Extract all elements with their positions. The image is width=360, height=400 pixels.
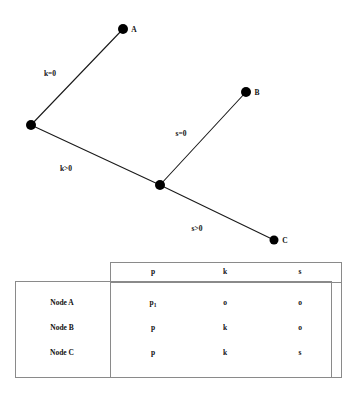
edge-label-s0: s=0 xyxy=(176,129,187,138)
graph-nodes xyxy=(26,24,279,245)
graph-node-a xyxy=(118,24,128,34)
node-label-c: C xyxy=(282,236,287,245)
node-label-b: B xyxy=(254,88,259,97)
table-cell-r2-c1: k xyxy=(223,348,228,357)
table-row-label-node-a: Node A xyxy=(50,298,74,307)
graph-edge-mid-C xyxy=(160,185,274,240)
edge-label-k0: k=0 xyxy=(44,69,56,78)
edge-label-k0: k>0 xyxy=(60,164,72,173)
table-column-header-p: p xyxy=(151,267,155,276)
graph-edges xyxy=(31,29,274,240)
table-cell-r0-c1: o xyxy=(223,298,227,307)
table-row-label-node-b: Node B xyxy=(50,323,74,332)
edge-label-s0: s>0 xyxy=(192,224,203,233)
tree-diagram-and-table: k=0k>0s=0s>0 ABC pksNode Ap1ooNode BpkoN… xyxy=(0,0,360,400)
graph-node-junction xyxy=(26,120,36,130)
graph-node-labels: ABC xyxy=(131,25,287,245)
table-borders xyxy=(16,263,342,378)
graph-node-c xyxy=(270,236,279,245)
table-cell-r1-c2: o xyxy=(298,323,302,332)
table-inner-box xyxy=(111,263,342,378)
table-cell-r0-c0: p1 xyxy=(150,298,157,308)
graph-edge-root-mid xyxy=(31,125,160,185)
table-cell-r0-c2: o xyxy=(298,298,302,307)
table-cell-r1-c0: p xyxy=(151,323,155,332)
table-cell-r2-c2: s xyxy=(299,348,302,357)
graph-edge-mid-B xyxy=(160,92,246,185)
graph-node-b xyxy=(241,87,251,97)
table-content: pksNode Ap1ooNode BpkoNode Cpks xyxy=(50,267,302,357)
graph-node-junction xyxy=(155,180,165,190)
table-cell-r1-c1: k xyxy=(223,323,228,332)
graph-edge-labels: k=0k>0s=0s>0 xyxy=(44,69,203,233)
table-column-header-s: s xyxy=(299,267,302,276)
node-label-a: A xyxy=(131,25,137,34)
table-column-header-k: k xyxy=(223,267,228,276)
table-cell-subscript: 1 xyxy=(154,302,157,308)
table-row-label-node-c: Node C xyxy=(50,348,74,357)
figure-container: k=0k>0s=0s>0 ABC pksNode Ap1ooNode BpkoN… xyxy=(0,0,360,400)
table-cell-r2-c0: p xyxy=(151,348,155,357)
